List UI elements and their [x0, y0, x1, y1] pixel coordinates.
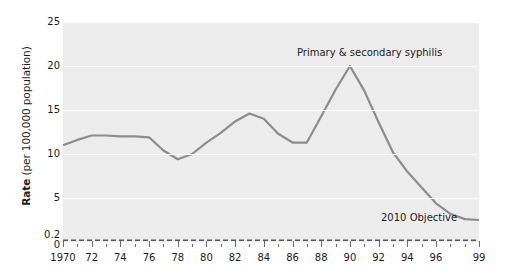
x-tick-mark — [92, 241, 93, 247]
y-tick-label: 25 — [14, 17, 60, 27]
x-tick-label: 82 — [229, 252, 242, 264]
x-tick-mark — [235, 241, 236, 247]
x-tick-mark — [278, 244, 279, 247]
x-tick-label: 76 — [143, 252, 156, 264]
x-tick-mark — [336, 244, 337, 247]
y-tick-label: 5 — [14, 193, 60, 203]
x-tick-label: 99 — [473, 252, 486, 264]
x-tick-label: 92 — [372, 252, 385, 264]
x-tick-mark — [393, 244, 394, 247]
x-tick-mark — [422, 244, 423, 247]
x-tick-mark — [364, 244, 365, 247]
series-line — [63, 66, 479, 220]
y-axis-ticks: 2520151050.20 — [12, 0, 60, 280]
y-tick-label: 20 — [14, 61, 60, 71]
x-tick-mark — [135, 244, 136, 247]
gridline — [63, 154, 479, 155]
x-tick-mark — [307, 244, 308, 247]
x-tick-label: 94 — [401, 252, 414, 264]
x-tick-label: 84 — [257, 252, 270, 264]
gridline — [63, 198, 479, 199]
x-tick-mark — [450, 244, 451, 247]
x-tick-label: 72 — [85, 252, 98, 264]
gridline — [63, 22, 479, 23]
y-tick-label: 0 — [14, 240, 60, 250]
x-tick-label: 78 — [171, 252, 184, 264]
x-tick-mark — [163, 244, 164, 247]
syphilis-rate-chart: Rate (per 100,000 population) 2520151050… — [0, 0, 506, 280]
x-tick-mark — [221, 244, 222, 247]
x-tick-mark — [206, 241, 207, 247]
x-tick-mark — [436, 241, 437, 247]
objective-annotation-label: 2010 Objective — [381, 212, 457, 223]
x-tick-mark — [379, 241, 380, 247]
x-tick-mark — [178, 241, 179, 247]
x-tick-mark — [149, 241, 150, 247]
x-tick-mark — [249, 244, 250, 247]
x-tick-mark — [293, 241, 294, 247]
x-tick-mark — [77, 244, 78, 247]
x-tick-mark — [407, 241, 408, 247]
gridline — [63, 66, 479, 67]
x-tick-mark — [120, 241, 121, 247]
x-tick-label: 74 — [114, 252, 127, 264]
x-tick-mark — [192, 244, 193, 247]
series-annotation-label: Primary & secondary syphilis — [297, 47, 442, 58]
x-tick-mark — [321, 241, 322, 247]
x-tick-mark — [465, 244, 466, 247]
x-tick-mark — [479, 241, 480, 247]
gridline — [63, 110, 479, 111]
x-axis-labels: 19707274767880828486889092949699 — [63, 252, 479, 268]
x-tick-mark — [264, 241, 265, 247]
x-tick-label: 80 — [200, 252, 213, 264]
x-tick-label: 96 — [430, 252, 443, 264]
y-tick-label: 10 — [14, 149, 60, 159]
x-tick-mark — [63, 241, 64, 247]
x-tick-label: 1970 — [50, 252, 75, 264]
x-tick-label: 88 — [315, 252, 328, 264]
x-tick-label: 90 — [344, 252, 357, 264]
x-tick-mark — [106, 244, 107, 247]
y-tick-label: 15 — [14, 105, 60, 115]
x-tick-mark — [350, 241, 351, 247]
x-tick-label: 86 — [286, 252, 299, 264]
